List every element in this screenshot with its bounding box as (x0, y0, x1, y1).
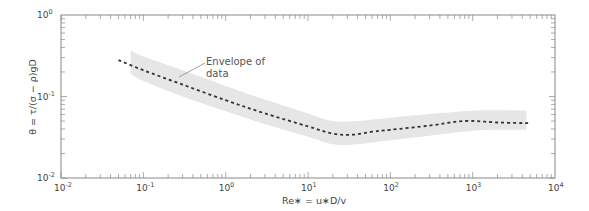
annotation-line-2: data (206, 68, 229, 79)
y-tick-label: 10-1 (37, 90, 55, 102)
axes-frame (61, 15, 555, 178)
x-tick-label: 102 (383, 181, 399, 193)
plot-frame (61, 15, 555, 178)
x-tick-label: 101 (301, 181, 317, 193)
y-tick-label: 10-2 (37, 171, 55, 183)
y-tick-labels: 10010-110-2 (37, 8, 55, 183)
axis-ticks (61, 15, 555, 178)
x-tick-label: 10-2 (54, 181, 72, 193)
shields-diagram-chart: 10-210-1100101102103104 10010-110-2 Enve… (0, 0, 589, 211)
x-tick-label: 100 (219, 181, 235, 193)
envelope-area (131, 50, 527, 145)
x-axis-title: Re∗ = u∗D/v (282, 195, 346, 206)
x-tick-label: 10-1 (136, 181, 154, 193)
x-tick-label: 103 (466, 181, 482, 193)
envelope-band (131, 50, 527, 145)
x-tick-labels: 10-210-1100101102103104 (54, 181, 564, 193)
y-axis-title: θ = τ/(σ − ρ)gD (27, 59, 38, 135)
y-tick-label: 100 (37, 8, 53, 20)
x-tick-label: 104 (548, 181, 564, 193)
annotation-line-1: Envelope of (206, 56, 265, 67)
